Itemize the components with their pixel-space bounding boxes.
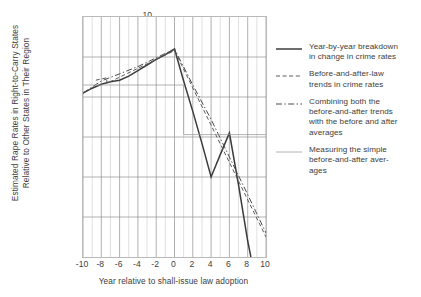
plot-canvas [83, 17, 266, 257]
legend-key-dash-dot [276, 101, 302, 107]
plot-area [82, 16, 267, 258]
legend-label-line: averages [309, 128, 398, 138]
legend-item-1[interactable]: Year-by-year breakdownin change in crime… [276, 42, 421, 63]
legend-label-line: Year-by-year breakdown [309, 42, 398, 52]
legend-item-label: Year-by-year breakdownin change in crime… [306, 42, 398, 63]
x-axis-title: Year relative to shall-issue law adoptio… [52, 276, 295, 286]
y-axis-title-line1: Estimated Rape Rates in Right-to-Carry S… [10, 25, 22, 202]
legend-label-line: in change in crime rates [309, 52, 398, 62]
y-axis-title-line2: Relative to Other States in Their Region [21, 38, 33, 189]
chart-figure: Estimated Rape Rates in Right-to-Carry S… [0, 0, 421, 297]
legend-item-3[interactable]: Combining both thebefore-and-after trend… [276, 97, 421, 139]
x-tick-label: 10 [253, 259, 277, 269]
legend-swatch-icon [276, 145, 306, 176]
legend-item-2[interactable]: Before-and-after-lawtrends in crime rate… [276, 69, 421, 90]
legend-label-line: before-and-after trends [309, 107, 398, 117]
legend-key-solid-thin [276, 149, 302, 155]
legend-item-label: Measuring the simplebefore-and-after ave… [306, 145, 389, 176]
legend-swatch-icon [276, 69, 306, 90]
legend-key-dashed [276, 73, 302, 79]
chart-legend: Year-by-year breakdownin change in crime… [276, 42, 421, 182]
legend-item-label: Combining both thebefore-and-after trend… [306, 97, 398, 139]
legend-label-line: trends in crime rates [309, 80, 384, 90]
legend-item-4[interactable]: Measuring the simplebefore-and-after ave… [276, 145, 421, 176]
legend-key-solid-thick [276, 46, 302, 52]
y-axis-title: Estimated Rape Rates in Right-to-Carry S… [4, 0, 38, 238]
legend-label-line: Measuring the simple [309, 145, 389, 155]
legend-label-line: before-and-after aver- [309, 155, 389, 165]
legend-item-label: Before-and-after-lawtrends in crime rate… [306, 69, 384, 90]
legend-label-line: ages [309, 166, 389, 176]
series-line-1 [83, 49, 251, 257]
legend-swatch-icon [276, 97, 306, 139]
legend-label-line: with the before and after [309, 117, 398, 127]
legend-label-line: Combining both the [309, 97, 398, 107]
series-line-2 [96, 51, 266, 237]
legend-label-line: Before-and-after-law [309, 69, 384, 79]
legend-swatch-icon [276, 42, 306, 63]
